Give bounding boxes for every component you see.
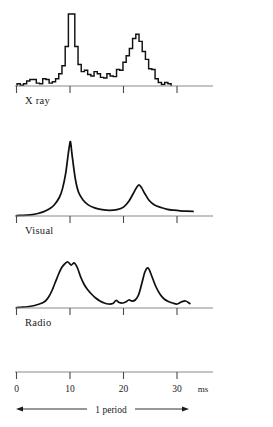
xray-ticks: [17, 86, 178, 93]
panel-label-radio: Radio: [25, 317, 52, 328]
panel-visual: Visual: [15, 142, 213, 236]
radio-ticks: [17, 308, 178, 315]
radio-trace: [17, 262, 190, 308]
period-arrow-right: [182, 407, 189, 412]
time-axis: 0 10 20 30 ms: [14, 372, 213, 394]
visual-trace: [17, 142, 194, 216]
tick-label-10: 10: [65, 384, 75, 394]
panel-xray: X ray: [15, 14, 213, 106]
tick-label-30: 30: [172, 384, 182, 394]
panel-radio: Radio: [15, 262, 213, 328]
panel-label-visual: Visual: [25, 225, 54, 236]
time-axis-ticks: [17, 372, 178, 379]
period-annotation: 1 period: [16, 405, 189, 415]
period-label: 1 period: [95, 405, 127, 415]
xray-trace: [17, 14, 171, 86]
tick-label-20: 20: [119, 384, 129, 394]
tick-label-0: 0: [14, 384, 19, 394]
period-arrow-left: [16, 407, 23, 412]
panel-label-xray: X ray: [25, 95, 51, 106]
figure-svg: X ray Visual Radio: [0, 0, 273, 427]
visual-ticks: [17, 216, 178, 223]
pulsar-light-curve-figure: X ray Visual Radio: [0, 0, 273, 427]
axis-unit-label: ms: [198, 384, 209, 394]
